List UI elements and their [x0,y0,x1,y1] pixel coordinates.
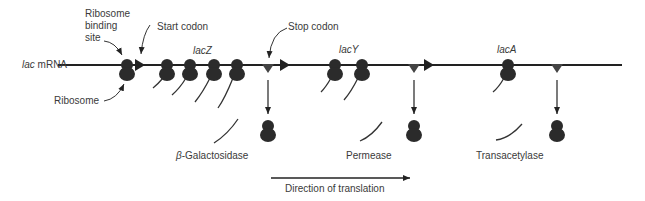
lacy-end-arrowhead [424,59,434,71]
released-ribosome-laca-icon [549,120,565,142]
laca-ribosomes [493,59,516,92]
mrna-label: lac mRNA [22,59,67,71]
product-label-lacy: Permease [346,150,392,162]
start-codon-label: Start codon [157,21,208,33]
start-codon-leader-arrow [141,25,150,54]
polypeptide-lacy [360,122,382,141]
polypeptide-lacz [214,119,238,143]
stop-codon-label: Stop codon [288,21,339,33]
released-ribosome-lacz-icon [260,120,276,142]
mrna-label-rest: mRNA [35,59,67,70]
gene-label-laca: lacA [497,44,516,56]
gene-label-lacz: lacZ [193,45,212,57]
lacz-ribosomes [153,59,245,108]
mrna-label-italic: lac [22,59,35,70]
ribosome-label: Ribosome [54,95,99,107]
product-label-lacz: β-Galactosidase [176,150,248,162]
product-label-laca: Transacetylase [476,150,543,162]
gene-label-lacy: lacY [339,44,358,56]
stop-codon-leader-arrow [269,28,287,58]
ribosome-initiating-icon [119,59,135,81]
polypeptide-laca [496,124,522,140]
stop-codon-lacy-icon [408,64,420,73]
direction-label: Direction of translation [285,183,385,195]
stop-codon-lacz-icon [262,64,274,73]
lacz-end-arrowhead [280,59,290,71]
ribosome-leader-arrow [104,84,124,101]
stop-codon-laca-icon [551,64,563,73]
released-ribosome-lacy-icon [406,120,422,142]
start-codon-arrowhead [135,59,145,71]
rbs-label: Ribosome binding site [85,8,130,44]
